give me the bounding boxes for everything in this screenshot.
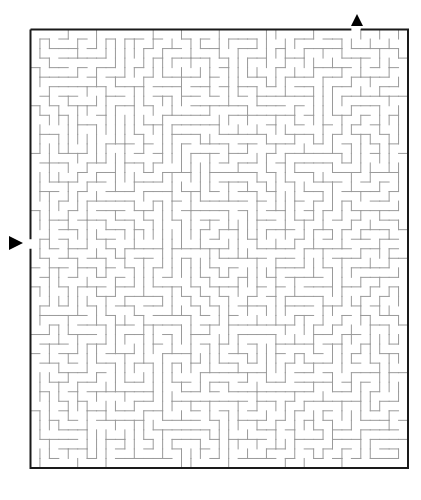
maze-inner-walls (31, 30, 409, 469)
triangle-up-icon (351, 14, 363, 26)
triangle-right-icon (9, 236, 23, 250)
maze-board[interactable] (0, 0, 421, 500)
maze-wall-paths (31, 30, 409, 469)
